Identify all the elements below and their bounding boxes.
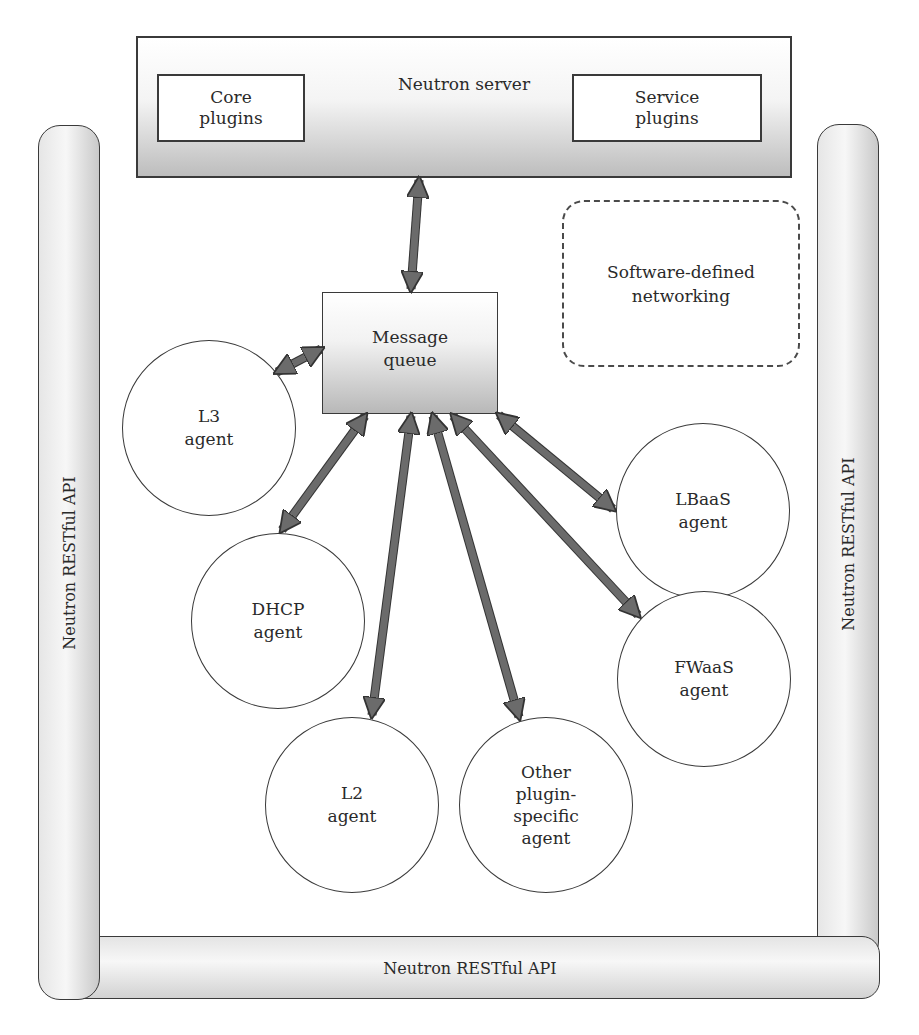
arrow-mq-to-dhcp-agent — [282, 416, 365, 530]
arrow-server-to-message-queue — [411, 180, 419, 289]
connection-arrows — [0, 0, 919, 1035]
arrow-mq-to-l2-agent — [372, 416, 411, 715]
arrow-mq-to-lbaas-agent — [499, 415, 613, 509]
arrow-mq-to-l3-agent — [277, 349, 321, 372]
arrow-mq-to-other-agent — [433, 416, 519, 717]
